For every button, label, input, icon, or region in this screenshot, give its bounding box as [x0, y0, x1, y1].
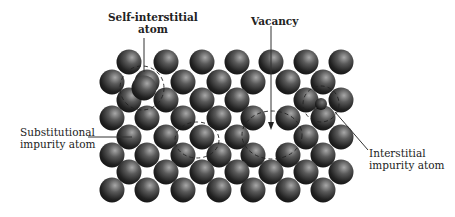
atom: [276, 178, 301, 203]
atom: [171, 178, 196, 203]
atom: [100, 178, 125, 203]
atom: [276, 70, 301, 95]
atom: [225, 50, 250, 75]
atom: [329, 88, 354, 113]
atom: [329, 160, 354, 185]
atom: [135, 178, 160, 203]
atom: [294, 50, 319, 75]
atom: [207, 106, 232, 131]
crystal-lattice: [0, 0, 455, 217]
self-interstitial-atom: [132, 76, 157, 101]
substitutional-text-line2: impurity atom: [20, 138, 95, 150]
atom: [100, 106, 125, 131]
self-interstitial-label: Self-interstitial atom: [108, 11, 198, 35]
atom-grid: [100, 50, 354, 203]
atom: [329, 50, 354, 75]
atom: [190, 50, 215, 75]
substitutional-text-line1: Substitutional: [20, 126, 95, 138]
interstitial-impurity-label: Interstitial impurity atom: [369, 147, 444, 171]
atom: [171, 106, 196, 131]
interstitial-text-line2: impurity atom: [369, 159, 444, 171]
atom: [207, 178, 232, 203]
defects-diagram: Self-interstitial atom Vacancy Substitut…: [0, 0, 455, 217]
atom: [154, 50, 179, 75]
vacancy-text: Vacancy: [251, 15, 298, 27]
atom: [117, 50, 142, 75]
vacancy-label: Vacancy: [251, 15, 298, 27]
self-interstitial-text-line2: atom: [138, 23, 168, 35]
substitutional-label: Substitutional impurity atom: [20, 126, 95, 150]
atom: [241, 178, 266, 203]
self-interstitial-text-line1: Self-interstitial: [108, 11, 198, 23]
atom: [311, 178, 336, 203]
vacancy-arrowhead: [268, 122, 274, 130]
interstitial-text-line1: Interstitial: [369, 147, 426, 159]
interstitial-impurity-atom: [315, 98, 327, 110]
atom: [276, 106, 301, 131]
